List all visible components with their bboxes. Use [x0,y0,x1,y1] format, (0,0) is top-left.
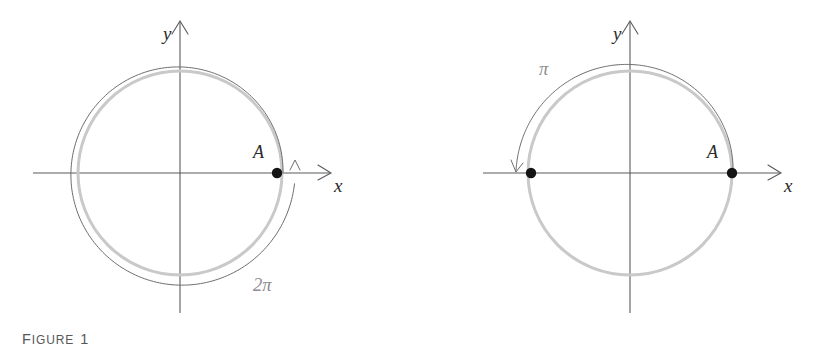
figure-2-angle-arc [516,64,733,173]
figure-2-point-a-label: A [706,142,719,162]
figure-2-point-a [727,168,737,178]
figure-2-y-axis-label: y [611,23,622,44]
figure-1-caption-lead: F [22,331,32,347]
figure-1-panel: y x A 2π FIGURE1 [0,0,410,353]
figure-1-point-a [272,168,282,178]
figure-1-y-axis-label: y [161,23,172,44]
figure-2-panel: y x A π FIGURE2 [410,0,820,353]
figure-1-caption-number: 1 [80,331,89,347]
figure-1-angle-arc [71,67,295,285]
figure-2-x-axis-label: x [783,175,793,196]
figure-2-angle-label: π [539,59,549,79]
figure-1-point-a-label: A [252,142,265,162]
figure-1-caption-word: IGURE [32,333,75,347]
figure-1-x-axis-label: x [333,175,343,196]
figure-2-graphic: y x A π [410,0,820,353]
figure-1-caption: FIGURE1 [22,331,89,347]
figure-page: y x A 2π FIGURE1 [0,0,820,353]
figure-1-arc-arrowhead [290,160,300,170]
figure-2-point-terminal [526,168,536,178]
figure-1-angle-label: 2π [253,275,272,295]
figure-1-graphic: y x A 2π [0,0,410,353]
